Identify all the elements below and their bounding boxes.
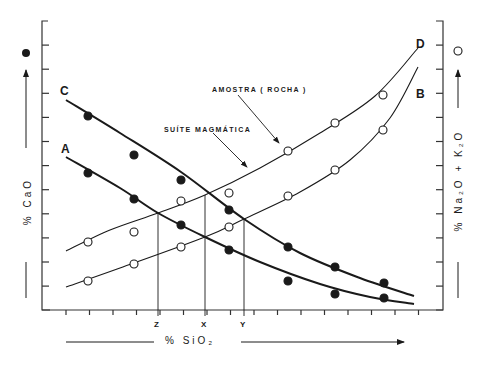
curve-label-b: B: [416, 87, 425, 101]
data-point-a: [177, 221, 185, 229]
suite-arrow-icon: [213, 133, 247, 167]
data-point-c: [177, 176, 185, 184]
data-point-d: [331, 119, 339, 127]
data-point-a: [331, 290, 339, 298]
right-axis-title: % Na₂O + K₂O: [453, 136, 464, 232]
data-point-d: [130, 228, 138, 236]
x-axis: [42, 310, 443, 315]
data-point-d: [177, 197, 185, 205]
data-point-d: [225, 189, 233, 197]
chart-canvas: [0, 0, 485, 366]
x-mark-x: X: [201, 320, 206, 329]
data-point-a: [225, 246, 233, 254]
x-mark-y: Y: [240, 320, 245, 329]
left-axis: [42, 21, 50, 310]
x-axis-title: % SiO₂: [165, 335, 215, 346]
left-axis-title: % CaO: [22, 167, 33, 237]
open-circle-legend-icon: [454, 47, 462, 55]
data-point-c: [130, 151, 138, 159]
data-point-a: [84, 169, 92, 177]
data-point-d: [84, 238, 92, 246]
right-axis: [436, 21, 443, 310]
curve-label-c: C: [60, 84, 69, 98]
curve-label-d: D: [416, 37, 425, 51]
data-point-c: [284, 243, 292, 251]
data-point-b: [130, 260, 138, 268]
data-point-b: [331, 166, 339, 174]
data-point-b: [177, 243, 185, 251]
data-point-c: [331, 263, 339, 271]
data-point-c: [84, 112, 92, 120]
data-point-d: [379, 91, 387, 99]
data-point-b: [84, 277, 92, 285]
data-point-c: [380, 279, 388, 287]
data-point-a: [284, 277, 292, 285]
annotation-amostra: AMOSTRA ( ROCHA ): [212, 86, 307, 93]
data-point-b: [225, 223, 233, 231]
data-point-a: [130, 195, 138, 203]
data-point-b: [379, 126, 387, 134]
filled-circle-legend-icon: [22, 49, 30, 57]
data-point-d: [284, 147, 292, 155]
x-mark-z: Z: [154, 320, 159, 329]
curve-label-a: A: [61, 142, 70, 156]
data-point-b: [284, 192, 292, 200]
annotation-suite: SUÍTE MAGMÁTICA: [164, 126, 251, 133]
data-point-a: [380, 294, 388, 302]
amostra-arrow-icon: [238, 95, 279, 143]
data-point-c: [225, 206, 233, 214]
